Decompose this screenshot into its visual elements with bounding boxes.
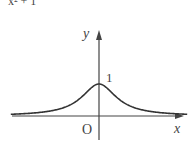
- y-axis-arrow-icon: [96, 30, 102, 40]
- x-axis-label: x: [173, 121, 181, 136]
- caption-fragment: x² + 1: [8, 0, 36, 8]
- origin-label: O: [82, 122, 92, 137]
- y-tick-label-1: 1: [106, 70, 113, 85]
- function-graph: x² + 1 y x O 1: [0, 0, 192, 159]
- y-axis-label: y: [81, 26, 90, 41]
